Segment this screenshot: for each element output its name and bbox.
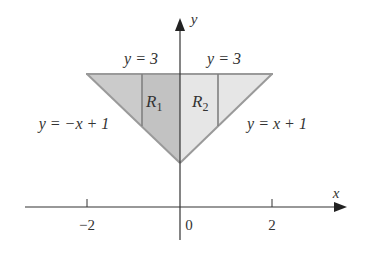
r1-region-fill [142,74,180,163]
x-tick-label-0: 0 [185,217,193,233]
y-axis-arrow-icon [175,18,185,31]
label-top-left-y-eq-3: y = 3 [122,50,158,68]
label-right-line: y = x + 1 [245,115,307,133]
y-axis-label: y [189,11,198,27]
label-top-right-y-eq-3: y = 3 [205,50,241,68]
x-axis-label: x [332,185,340,201]
region-diagram: −2 0 2 x y y = 3 y = 3 y = −x + 1 y = x … [0,0,367,254]
x-tick-label-2: 2 [268,217,276,233]
x-axis-arrow-icon [334,202,347,212]
label-left-line: y = −x + 1 [37,115,110,133]
x-tick-label-neg2: −2 [79,217,95,233]
